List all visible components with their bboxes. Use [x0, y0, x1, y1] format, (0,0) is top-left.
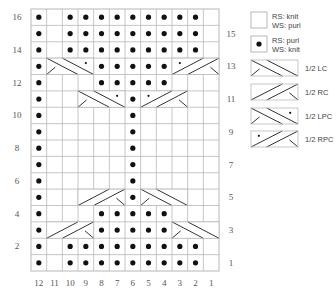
column-number: 4 [162, 278, 167, 288]
column-number: 9 [84, 278, 89, 288]
row-label-left: 6 [15, 176, 20, 186]
legend-rpc-icon [251, 131, 298, 147]
row-label-left: 16 [13, 12, 23, 22]
row-label-right: 7 [229, 160, 234, 170]
row-label-right: 1 [229, 258, 234, 268]
row-label-left: 10 [13, 110, 23, 120]
column-number: 12 [34, 278, 43, 288]
legend-label-lpc: 1/2 LPC [305, 112, 332, 121]
row-label-right: 11 [227, 94, 236, 104]
column-number: 5 [146, 278, 151, 288]
legend-label-lc: 1/2 LC [305, 64, 327, 73]
row-label-right: 3 [229, 225, 234, 235]
legend-label-knit: RS: knit WS: purl [272, 12, 301, 30]
legend-label-rc: 1/2 RC [305, 88, 328, 97]
column-number: 3 [178, 278, 183, 288]
row-label-right: 9 [229, 127, 234, 137]
legend-rc-icon [251, 84, 298, 100]
row-label-right: 13 [227, 61, 237, 71]
row-label-right: 15 [227, 29, 237, 39]
row-label-left: 2 [15, 241, 20, 251]
legend-label-purl: RS: purl WS: knit [272, 36, 300, 54]
row-label-left: 14 [13, 45, 23, 55]
column-number: 8 [99, 278, 104, 288]
row-label-left: 8 [15, 143, 20, 153]
legend-label-rpc: 1/2 RPC [305, 135, 333, 144]
row-label-left: 4 [15, 209, 20, 219]
column-number: 7 [115, 278, 120, 288]
legend-purl-line1: RS: purl [272, 36, 300, 45]
column-number: 1 [209, 278, 214, 288]
row-label-left: 12 [13, 78, 22, 88]
column-number: 11 [50, 278, 59, 288]
legend-purl-line2: WS: knit [272, 45, 300, 54]
legend-knit-line2: WS: purl [272, 21, 301, 30]
legend [251, 12, 298, 147]
column-number: 10 [66, 278, 76, 288]
column-number: 6 [131, 278, 136, 288]
legend-lpc-icon [251, 108, 298, 124]
column-number: 2 [193, 278, 198, 288]
legend-knit-line1: RS: knit [272, 12, 301, 21]
legend-lc-icon [251, 60, 298, 76]
legend-knit-icon [251, 12, 267, 28]
row-label-right: 5 [229, 192, 234, 202]
